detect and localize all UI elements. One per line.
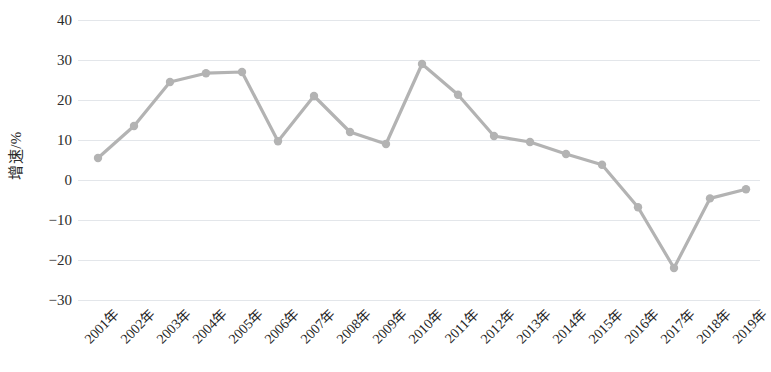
x-axis-tick-label: 2008年 xyxy=(331,302,376,347)
plot-area xyxy=(78,20,760,300)
x-axis-tick-label: 2005年 xyxy=(223,302,268,347)
series-line-increase-rate xyxy=(98,64,746,268)
y-axis-tick-label: −20 xyxy=(26,252,72,269)
x-axis-tick-label-text: 2001年 xyxy=(79,302,124,347)
x-axis-tick-label-text: 2009年 xyxy=(367,302,412,347)
x-axis-tick-label-text: 2016年 xyxy=(619,302,664,347)
x-axis-tick-label-text: 2005年 xyxy=(223,302,268,347)
x-axis-tick-label: 2009年 xyxy=(367,302,412,347)
data-point-marker xyxy=(742,185,750,193)
data-point-marker xyxy=(346,128,354,136)
x-axis-tick-label: 2010年 xyxy=(403,302,448,347)
x-axis-tick-labels: 2001年2002年2003年2004年2005年2006年2007年2008年… xyxy=(78,302,760,372)
x-axis-tick-label: 2012年 xyxy=(475,302,520,347)
x-axis-tick-label-text: 2003年 xyxy=(151,302,196,347)
data-point-marker xyxy=(94,154,102,162)
x-axis-tick-label: 2004年 xyxy=(187,302,232,347)
series-markers xyxy=(94,60,750,272)
y-axis-tick-label: −10 xyxy=(26,212,72,229)
x-axis-tick-label-text: 2018年 xyxy=(691,302,736,347)
data-point-marker xyxy=(382,140,390,148)
x-axis-tick-label: 2002年 xyxy=(115,302,160,347)
x-axis-tick-label-text: 2013年 xyxy=(511,302,556,347)
y-axis-tick-label: 10 xyxy=(26,132,72,149)
data-point-marker xyxy=(274,137,282,145)
data-point-marker xyxy=(202,69,210,77)
data-point-marker xyxy=(130,122,138,130)
x-axis-tick-label-text: 2017年 xyxy=(655,302,700,347)
data-point-marker xyxy=(562,150,570,158)
x-axis-tick-label: 2003年 xyxy=(151,302,196,347)
data-point-marker xyxy=(490,132,498,140)
x-axis-tick-label-text: 2008年 xyxy=(331,302,376,347)
y-axis-tick-label: 20 xyxy=(26,92,72,109)
y-axis-tick-label: 40 xyxy=(26,12,72,29)
x-axis-tick-label: 2017年 xyxy=(655,302,700,347)
x-axis-tick-label-text: 2010年 xyxy=(403,302,448,347)
data-point-marker xyxy=(238,68,246,76)
x-axis-tick-label: 2007年 xyxy=(295,302,340,347)
y-axis-tick-label: −30 xyxy=(26,292,72,309)
y-axis-tick-label: 0 xyxy=(26,172,72,189)
x-axis-tick-label: 2016年 xyxy=(619,302,664,347)
x-axis-tick-label: 2013年 xyxy=(511,302,556,347)
x-axis-tick-label: 2015年 xyxy=(583,302,628,347)
x-axis-tick-label-text: 2002年 xyxy=(115,302,160,347)
y-axis-tick-labels: 403020100−10−20−30 xyxy=(22,20,72,300)
data-point-marker xyxy=(670,264,678,272)
data-point-marker xyxy=(598,161,606,169)
x-axis-tick-label: 2011年 xyxy=(439,302,484,347)
x-axis-tick-label: 2014年 xyxy=(547,302,592,347)
x-axis-tick-label-text: 2012年 xyxy=(475,302,520,347)
data-point-marker xyxy=(454,91,462,99)
data-point-marker xyxy=(166,78,174,86)
x-axis-tick-label-text: 2006年 xyxy=(259,302,304,347)
y-axis-tick-label: 30 xyxy=(26,52,72,69)
x-axis-tick-label: 2018年 xyxy=(691,302,736,347)
x-axis-tick-label-text: 2019年 xyxy=(727,302,771,347)
data-point-marker xyxy=(310,92,318,100)
series-layer xyxy=(78,20,760,300)
data-point-marker xyxy=(634,203,642,211)
x-axis-tick-label-text: 2004年 xyxy=(187,302,232,347)
data-point-marker xyxy=(418,60,426,68)
x-axis-tick-label-text: 2014年 xyxy=(547,302,592,347)
x-axis-tick-label: 2001年 xyxy=(79,302,124,347)
data-point-marker xyxy=(706,194,714,202)
x-axis-tick-label-text: 2015年 xyxy=(583,302,628,347)
data-point-marker xyxy=(526,138,534,146)
gridline xyxy=(78,300,760,301)
x-axis-tick-label-text: 2007年 xyxy=(295,302,340,347)
x-axis-tick-label: 2019年 xyxy=(727,302,771,347)
x-axis-tick-label: 2006年 xyxy=(259,302,304,347)
x-axis-tick-label-text: 2011年 xyxy=(439,302,484,347)
